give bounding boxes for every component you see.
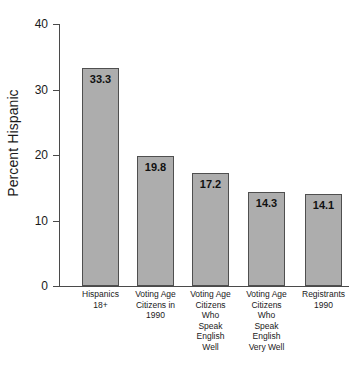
- bar-value-label: 33.3: [82, 74, 119, 85]
- bar-value-label: 14.3: [248, 198, 285, 209]
- bar-group[interactable]: 14.3: [248, 192, 285, 286]
- x-axis-category-label: Registrants 1990: [295, 289, 353, 310]
- x-axis-category-label: Voting Age Citizens Who Speak English We…: [182, 289, 240, 353]
- x-axis-category-label: Voting Age Citizens in 1990: [127, 289, 185, 321]
- bar-value-label: 19.8: [137, 162, 174, 173]
- bar-group[interactable]: 14.1: [305, 194, 342, 286]
- bar-chart: Percent Hispanic 010203040 33.319.817.21…: [0, 0, 356, 381]
- bar-group[interactable]: 19.8: [137, 156, 174, 286]
- x-axis-category-label: Hispanics 18+: [72, 289, 130, 310]
- x-axis-category-label: Voting Age Citizens Who Speak English Ve…: [238, 289, 296, 353]
- x-axis-labels: Hispanics 18+Voting Age Citizens in 1990…: [0, 289, 356, 381]
- bar-group[interactable]: 33.3: [82, 68, 119, 286]
- bar[interactable]: [82, 68, 119, 286]
- bar-value-label: 17.2: [192, 179, 229, 190]
- bar-value-label: 14.1: [305, 200, 342, 211]
- bar[interactable]: [137, 156, 174, 286]
- bar-group[interactable]: 17.2: [192, 173, 229, 286]
- plot-area: 33.319.817.214.314.1: [0, 0, 356, 287]
